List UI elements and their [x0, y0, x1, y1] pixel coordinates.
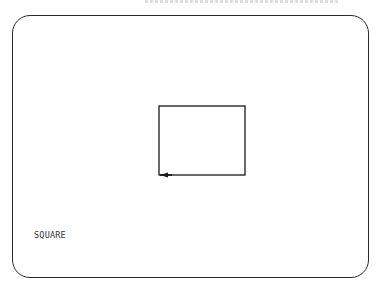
drawn-square: [159, 106, 245, 175]
turtle-graphics-canvas: [0, 0, 380, 291]
program-name-label: SQUARE: [34, 230, 66, 240]
turtle-arrow-icon: [160, 173, 172, 178]
